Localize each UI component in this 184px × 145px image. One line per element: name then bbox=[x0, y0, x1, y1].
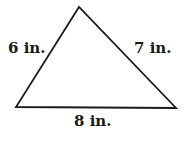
triangle-diagram: 6 in. 7 in. 8 in. bbox=[0, 0, 184, 145]
side-label-bottom: 8 in. bbox=[74, 114, 112, 129]
side-label-left: 6 in. bbox=[8, 41, 46, 56]
side-label-right: 7 in. bbox=[134, 41, 172, 56]
